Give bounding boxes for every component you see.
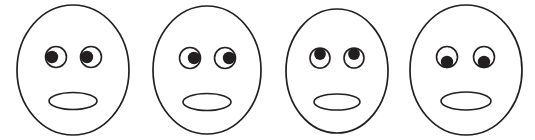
face-4-mouth-icon bbox=[441, 92, 491, 110]
face-2-group bbox=[153, 6, 261, 134]
face-4-head-outline bbox=[410, 5, 522, 135]
faces-illustration bbox=[0, 0, 535, 140]
face-3-head-outline bbox=[286, 9, 388, 133]
face-4-group bbox=[410, 5, 522, 135]
face-2-left-pupil-icon bbox=[188, 52, 200, 64]
face-1-right-pupil-icon bbox=[81, 51, 93, 63]
face-1-head-outline bbox=[17, 5, 129, 135]
faces-canvas bbox=[0, 0, 535, 140]
face-1-group bbox=[17, 5, 129, 135]
face-2-mouth-icon bbox=[183, 94, 231, 111]
face-3-right-pupil-icon bbox=[348, 48, 360, 60]
face-1-left-pupil-icon bbox=[46, 51, 58, 63]
face-4-left-pupil-icon bbox=[441, 56, 453, 68]
face-3-left-pupil-icon bbox=[314, 48, 326, 60]
face-1-mouth-icon bbox=[49, 93, 97, 110]
face-3-mouth-icon bbox=[314, 94, 360, 110]
face-4-right-pupil-icon bbox=[478, 56, 490, 68]
face-3-group bbox=[286, 9, 388, 133]
face-2-right-pupil-icon bbox=[223, 52, 235, 64]
face-2-head-outline bbox=[153, 6, 261, 134]
